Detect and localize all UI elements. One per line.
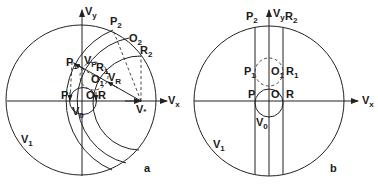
label-p-a: P xyxy=(61,89,68,101)
label-p2-a: P2 xyxy=(110,15,122,30)
label-p-b: P xyxy=(248,88,255,100)
caption-a: a xyxy=(144,162,151,174)
label-v1-a: V1 xyxy=(21,133,33,148)
caption-b: b xyxy=(330,162,337,174)
label-p1-b: P1 xyxy=(244,65,256,80)
label-vx-a: Vx xyxy=(168,94,180,109)
label-p1-a: P1 xyxy=(66,56,78,71)
label-vy-b: Vy xyxy=(273,7,285,22)
velocity-diagram-figure: Vy Vx P2 O2 R2 P1 VP R1 O1 VR P O R V0 V… xyxy=(0,0,378,188)
label-vstar-a: V* xyxy=(136,103,147,116)
panel-b: Vy Vx P2 R2 P1 O1 R1 P O R V0 V1 b xyxy=(194,7,374,176)
label-vy-a: Vy xyxy=(85,5,97,20)
label-r2-b: R2 xyxy=(285,10,298,25)
label-v1-b: V1 xyxy=(213,138,225,153)
outer-circle-v1 xyxy=(6,25,156,175)
label-r-a: R xyxy=(98,89,106,101)
label-r-b: R xyxy=(286,88,294,100)
label-o-a: O xyxy=(86,89,95,101)
label-p2-b: P2 xyxy=(246,10,258,25)
label-r1-b: R1 xyxy=(286,65,299,80)
label-o-b: O xyxy=(271,88,280,100)
label-v0-b: V0 xyxy=(256,116,268,131)
panel-a: Vy Vx P2 O2 R2 P1 VP R1 O1 VR P O R V0 V… xyxy=(6,5,180,176)
label-vx-b: Vx xyxy=(362,94,374,109)
